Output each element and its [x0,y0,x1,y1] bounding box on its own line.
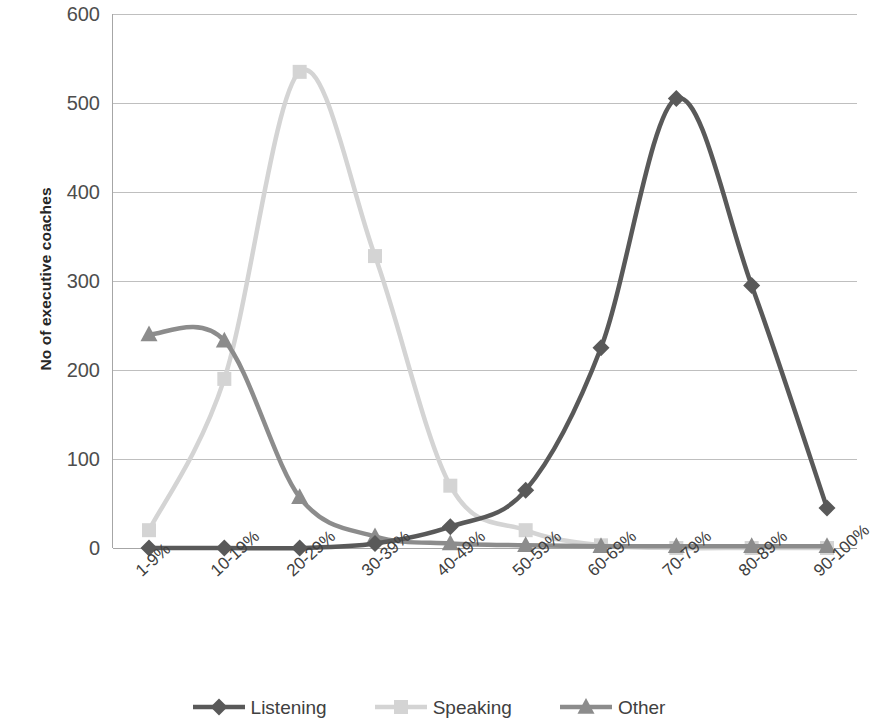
square-marker [394,700,408,714]
legend-label: Other [618,698,666,717]
square-marker [519,523,533,537]
legend-label: Listening [251,698,327,717]
legend-triangle-icon [558,696,614,718]
plot-area [112,14,856,548]
y-axis-tick-labels: 0100200300400500600 [28,0,100,560]
square-marker [368,249,382,263]
x-axis-tick-labels: 1-9%10-19%20-29%30-39%40-49%50-59%60-69%… [112,548,856,668]
legend-label: Speaking [433,698,512,717]
square-marker [217,372,231,386]
series-listening [141,90,836,556]
diamond-marker [442,518,459,535]
square-marker [293,65,307,79]
y-tick-label: 100 [28,449,100,469]
y-tick-label: 0 [28,538,100,558]
series-line [149,327,827,546]
chart-legend: ListeningSpeakingOther [0,690,856,724]
legend-diamond-icon [191,696,247,718]
y-tick-label: 500 [28,93,100,113]
y-tick-label: 400 [28,182,100,202]
diamond-marker [593,339,610,356]
legend-item-listening[interactable]: Listening [191,696,327,718]
legend-item-other[interactable]: Other [558,696,666,718]
y-tick-label: 300 [28,271,100,291]
diamond-marker [819,499,836,516]
y-tick-label: 600 [28,4,100,24]
series-canvas [113,14,857,548]
legend-item-speaking[interactable]: Speaking [373,696,512,718]
legend-square-icon [373,696,429,718]
diamond-marker [743,277,760,294]
diamond-marker [210,699,227,716]
series-speaking [142,65,834,555]
square-marker [443,479,457,493]
series-line [149,98,827,548]
series-line [149,70,827,548]
square-marker [142,523,156,537]
y-tick-label: 200 [28,360,100,380]
